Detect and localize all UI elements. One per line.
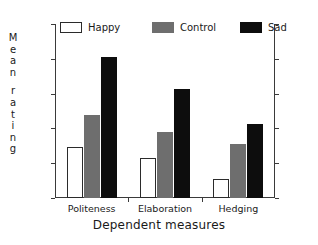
bar-control-politeness — [84, 115, 100, 198]
legend-label-happy: Happy — [88, 22, 120, 33]
x-axis-category-labels: PolitenessElaborationHedging — [55, 203, 275, 217]
y-tick-left — [51, 198, 55, 199]
y-axis-title-letter: n — [10, 132, 16, 144]
bar-happy-politeness — [67, 147, 83, 198]
x-axis-label-politeness: Politeness — [68, 203, 116, 215]
y-axis-title-letter: a — [10, 55, 16, 67]
legend-label-control: Control — [180, 22, 216, 33]
y-axis-title: M e a n r a t i n g — [2, 32, 24, 155]
legend-swatch-happy-icon — [60, 22, 82, 33]
legend-item-control: Control — [152, 22, 240, 33]
y-axis-title-letter: r — [11, 85, 15, 97]
legend: Happy Control Sad — [60, 22, 287, 33]
y-tick-right — [275, 59, 279, 60]
legend-swatch-sad-icon — [240, 22, 262, 33]
x-axis-title: Dependent measures — [0, 218, 318, 232]
plot-area: 4.54.5443.53.5332.52.522 — [55, 24, 275, 198]
y-tick-right — [275, 198, 279, 199]
x-group-separator — [128, 198, 129, 202]
y-tick-right — [275, 163, 279, 164]
y-axis-title-letter: i — [12, 120, 15, 132]
y-tick-right — [275, 94, 279, 95]
legend-item-sad: Sad — [240, 22, 287, 33]
y-axis-title-letter: M — [9, 32, 18, 44]
y-axis-title-letter: n — [10, 67, 16, 79]
y-axis-title-letter: t — [11, 109, 15, 121]
legend-swatch-control-icon — [152, 22, 174, 33]
x-axis-label-hedging: Hedging — [218, 203, 258, 215]
y-tick-right — [275, 128, 279, 129]
bars-layer — [55, 24, 275, 198]
bar-control-hedging — [230, 144, 246, 198]
bar-control-elaboration — [157, 132, 173, 198]
y-axis-title-letter: e — [10, 44, 16, 56]
x-group-separator — [202, 198, 203, 202]
x-axis-label-elaboration: Elaboration — [138, 203, 192, 215]
bar-chart: M e a n r a t i n g 4.54.5443.53.5332.52… — [0, 0, 318, 245]
y-axis-title-letter: a — [10, 97, 16, 109]
bar-sad-hedging — [247, 124, 263, 198]
bar-happy-elaboration — [140, 158, 156, 198]
legend-label-sad: Sad — [268, 22, 287, 33]
bar-happy-hedging — [213, 179, 229, 198]
bar-sad-politeness — [101, 57, 117, 198]
legend-item-happy: Happy — [60, 22, 152, 33]
y-axis-title-letter: g — [10, 143, 16, 155]
bar-sad-elaboration — [174, 89, 190, 198]
